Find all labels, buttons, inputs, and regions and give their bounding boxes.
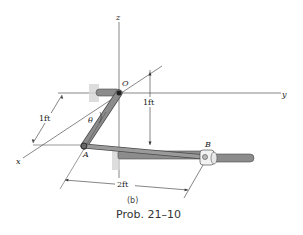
dim-2ft-arrow-right — [185, 189, 189, 192]
point-a-label: A — [82, 150, 89, 159]
pin-o — [117, 91, 122, 96]
figure-caption: Prob. 21–10 — [116, 208, 181, 221]
theta-label: θ — [88, 116, 93, 125]
dim-2ft-ext-b — [184, 165, 203, 198]
point-b-label: B — [204, 140, 211, 149]
x-axis — [23, 66, 162, 158]
z-axis-label: z — [115, 13, 121, 22]
dim-1ft-vert-arrow-bottom — [149, 142, 152, 146]
dim-1ft-vert-arrow-top — [149, 72, 152, 76]
dim-1ft-vert-label: 1ft — [143, 98, 155, 107]
collar-b-pin — [203, 155, 208, 160]
pin-a — [81, 143, 87, 149]
subfigure-label: (b) — [127, 196, 138, 205]
collar-b-end — [211, 152, 217, 164]
dim-2ft-label: 2ft — [117, 180, 129, 189]
y-axis-label: y — [281, 90, 287, 99]
point-o-label: O — [122, 79, 129, 88]
rod-b — [212, 154, 254, 162]
x-axis-label: x — [16, 157, 21, 166]
dim-1ft-left-label: 1ft — [39, 114, 51, 123]
mechanism-diagram: y z x O A B θ 1ft 1ft — [0, 0, 303, 235]
